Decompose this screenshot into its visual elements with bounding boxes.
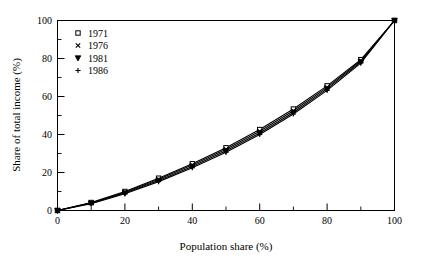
legend-label: 1976 bbox=[88, 40, 108, 51]
lorenz-curve-chart: 0 20 40 60 80 100 0 20 40 60 80 100 Popu… bbox=[0, 0, 426, 273]
legend-label: 1971 bbox=[88, 28, 108, 39]
x-tick-label: 80 bbox=[322, 215, 332, 226]
y-tick-label: 20 bbox=[42, 167, 52, 178]
x-tick-label: 100 bbox=[387, 215, 402, 226]
data-point-marker-open-square bbox=[76, 31, 80, 35]
legend-label: 1986 bbox=[88, 65, 108, 76]
y-tick-label: 80 bbox=[42, 53, 52, 64]
x-tick-label: 40 bbox=[187, 215, 197, 226]
legend-label: 1981 bbox=[88, 53, 108, 64]
x-tick-label: 20 bbox=[120, 215, 130, 226]
y-axis-title: Share of total income (%) bbox=[10, 58, 23, 172]
y-tick-label: 100 bbox=[37, 15, 52, 26]
y-tick-label: 60 bbox=[42, 91, 52, 102]
y-tick-label: 0 bbox=[47, 205, 52, 216]
chart-background bbox=[0, 0, 426, 273]
x-tick-label: 0 bbox=[55, 215, 60, 226]
x-tick-label: 60 bbox=[255, 215, 265, 226]
y-tick-label: 40 bbox=[42, 129, 52, 140]
x-axis-title: Population share (%) bbox=[180, 240, 273, 253]
